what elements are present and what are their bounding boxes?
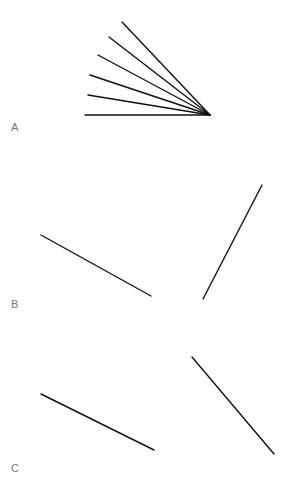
panel-b-lines <box>41 185 262 299</box>
line-segment <box>109 37 210 115</box>
line-segment <box>41 235 151 296</box>
panel-c-lines <box>41 357 274 454</box>
line-segment <box>192 357 274 454</box>
panel-label-c: C <box>11 462 19 474</box>
line-segment <box>203 185 262 299</box>
line-segment <box>41 394 154 450</box>
panel-label-b: B <box>11 298 18 310</box>
panel-label-a: A <box>11 121 18 133</box>
line-diagram-canvas <box>0 0 285 486</box>
panel-a-lines <box>85 22 210 115</box>
